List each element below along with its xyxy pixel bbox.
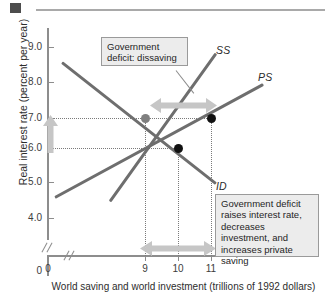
header-rule	[36, 9, 325, 11]
point-investment-equilibrium	[174, 144, 183, 153]
curve-supply-of-saving	[109, 53, 217, 203]
guide-line-q11	[211, 118, 212, 256]
x-axis-title: World saving and world investment (trill…	[42, 281, 325, 292]
curve-label-id: ID	[216, 180, 227, 192]
x-origin-label: 0	[36, 264, 60, 274]
y-axis-title: Real interest rate (percent per year)	[17, 17, 29, 187]
deficit-callout: Government deficit: dissaving	[101, 37, 188, 66]
deficit-gap-arrow-top	[150, 98, 217, 113]
guide-line-rate-6	[49, 148, 180, 149]
deficit-gap-arrow-bottom	[140, 241, 216, 256]
deficit-callout-leader	[176, 70, 195, 93]
y-tick-5	[49, 182, 54, 183]
x-tick-11	[211, 257, 212, 261]
y-tick-8	[49, 82, 54, 83]
x-tick-10	[178, 257, 179, 261]
x-tick-label-10: 10	[166, 264, 190, 274]
x-tick-label-9: 9	[133, 264, 157, 274]
curve-label-ss: SS	[216, 44, 230, 56]
guide-line-q10	[178, 148, 179, 256]
guide-line-q9	[145, 118, 146, 256]
effects-callout: Government deficit raises interest rate,…	[215, 194, 319, 257]
point-private-saving-equilibrium	[207, 114, 216, 123]
x-tick-9	[145, 257, 146, 261]
point-initial-equilibrium	[141, 114, 150, 123]
x-tick-label-11: 11	[199, 264, 223, 274]
section-square-marker	[10, 3, 21, 13]
interest-rate-rise-arrow	[43, 115, 58, 153]
y-tick-9	[49, 47, 54, 48]
y-tick-label-4: 4.0	[12, 213, 42, 223]
curve-label-ps: PS	[258, 71, 272, 83]
y-tick-4	[49, 218, 54, 219]
figure-container: 9.0 8.0 7.0 6.0 5.0 4.0 0 9 10 11 0 Real…	[0, 0, 325, 297]
y-axis-break-slash-2	[46, 242, 52, 252]
